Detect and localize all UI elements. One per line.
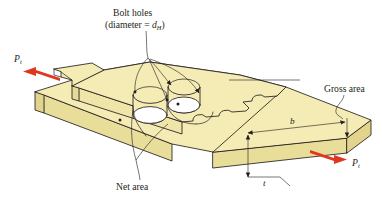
bolt-holes-label-line2: (diameter = dH) <box>105 19 165 31</box>
force-left-subscript: t <box>20 58 22 65</box>
thickness-dimension-label: t <box>263 178 266 188</box>
bolt-holes-leader-trunk <box>146 31 148 58</box>
width-dimension-label: b <box>290 116 295 126</box>
net-area-leader-dot-2 <box>177 103 180 106</box>
strap-left-end-face <box>72 86 79 101</box>
force-right-subscript: t <box>358 162 360 169</box>
thickness-extension-lower <box>248 177 290 186</box>
net-area-leader-dot-1 <box>119 119 122 122</box>
bolt-hole-1-opening <box>133 107 167 124</box>
force-left: Pt <box>13 53 60 81</box>
force-right-label: Pt <box>351 157 360 169</box>
bolt-hole-2-opening <box>168 97 200 113</box>
bolt-holes-diameter-prefix: (diameter = <box>105 19 152 31</box>
net-area-leader-trunk <box>136 160 140 180</box>
force-left-label: Pt <box>13 53 22 65</box>
bolted-lap-splice-figure: Bolt holes (diameter = dH) Net area <box>0 0 382 208</box>
bolt-holes-diameter-suffix: ) <box>161 19 164 31</box>
gross-area-label: Gross area <box>324 83 365 94</box>
bolt-holes-label-line1: Bolt holes <box>113 7 152 18</box>
left-plate-left-end-face <box>35 92 44 113</box>
net-area-label: Net area <box>116 181 149 192</box>
